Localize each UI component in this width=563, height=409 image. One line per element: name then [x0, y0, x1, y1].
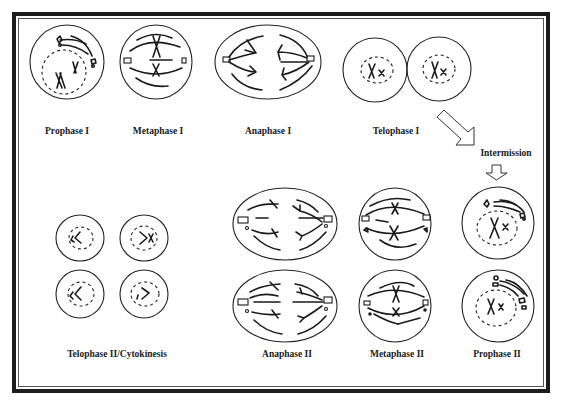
anaphase-2-cells	[233, 188, 337, 342]
label-telophase-2-cytokinesis: Telophase II/Cytokinesis	[67, 349, 167, 359]
diagonal-arrow-icon	[437, 110, 474, 145]
label-telophase-1: Telophase I	[373, 126, 420, 136]
down-arrow-icon	[486, 165, 507, 180]
telophase-1-cells	[343, 37, 471, 102]
meiosis-diagram: Prophase I Metaphase I	[0, 0, 563, 409]
label-prophase-1: Prophase I	[45, 126, 89, 136]
label-metaphase-1: Metaphase I	[133, 126, 184, 136]
prophase-1-cell	[30, 25, 104, 99]
label-anaphase-1: Anaphase I	[245, 126, 291, 136]
metaphase-2-cells	[359, 188, 431, 342]
metaphase-1-cell	[120, 25, 192, 99]
prophase-2-cells	[462, 187, 534, 342]
telophase-2-cells	[56, 215, 168, 318]
label-anaphase-2: Anaphase II	[262, 349, 312, 359]
anaphase-1-cell	[215, 25, 321, 99]
label-intermission: Intermission	[480, 148, 532, 158]
diagram-canvas: Prophase I Metaphase I	[0, 0, 563, 409]
label-metaphase-2: Metaphase II	[370, 349, 424, 359]
label-prophase-2: Prophase II	[473, 349, 521, 359]
